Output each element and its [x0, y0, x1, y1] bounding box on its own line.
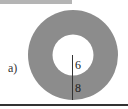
- ring-width-label: 8: [75, 82, 81, 94]
- part-label: a): [8, 62, 17, 74]
- annulus-diagram: [0, 0, 128, 109]
- inner-radius-label: 6: [75, 59, 81, 71]
- bottom-rule: [0, 104, 128, 106]
